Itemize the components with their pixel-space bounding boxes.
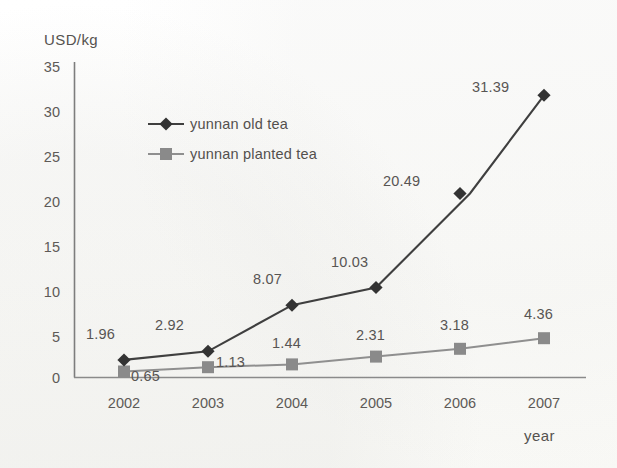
marker-planted-2003 [202,361,214,373]
data-label-planted-2003: 1.13 [216,355,245,370]
data-label-old-2007: 31.39 [472,80,509,95]
legend-label-yunnan-planted-tea: yunnan planted tea [190,147,317,162]
plot-area [0,0,617,468]
chart-figure: USD/kg year 35 30 25 20 15 10 5 0 2002 2… [0,0,617,468]
data-label-planted-2006: 3.18 [440,318,469,333]
series-line-yunnan-planted-tea [124,338,544,371]
data-label-planted-2007: 4.36 [524,307,553,322]
data-label-planted-2002: 0.65 [131,369,160,384]
data-label-planted-2005: 2.31 [356,328,385,343]
marker-old-2004 [285,299,298,312]
legend-marker-yunnan-planted-tea [148,148,184,160]
data-label-old-2002: 1.96 [86,327,115,342]
data-label-old-2003: 2.92 [155,318,184,333]
marker-planted-2005 [370,351,382,363]
marker-old-2003 [201,345,214,358]
legend-marker-yunnan-old-tea [148,117,184,130]
marker-planted-2004 [286,358,298,370]
marker-planted-2002 [118,366,130,378]
marker-planted-2006 [454,343,466,355]
data-label-old-2006: 20.49 [383,174,420,189]
marker-planted-2007 [538,332,550,344]
marker-old-2002 [117,353,130,366]
data-label-old-2004: 8.07 [253,272,282,287]
data-label-planted-2004: 1.44 [272,336,301,351]
series-line-yunnan-old-tea [124,95,544,360]
legend-label-yunnan-old-tea: yunnan old tea [190,117,288,132]
data-label-old-2005: 10.03 [331,255,368,270]
